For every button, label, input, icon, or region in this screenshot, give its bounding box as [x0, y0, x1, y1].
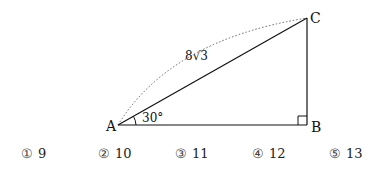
choice-value: 10 — [115, 146, 132, 161]
side-ac — [118, 18, 307, 125]
choice-3[interactable]: ③11 — [175, 146, 209, 161]
choice-value: 9 — [38, 146, 46, 161]
choice-value: 11 — [192, 146, 209, 161]
choice-marker: ④ — [252, 146, 264, 161]
vertex-b-label: B — [311, 119, 321, 135]
angle-label: 30° — [142, 111, 163, 125]
hypotenuse-label: 8√3 — [185, 49, 208, 63]
angle-arc — [134, 117, 137, 126]
choice-marker: ③ — [175, 146, 187, 161]
choice-4[interactable]: ④12 — [252, 146, 286, 161]
choice-value: 13 — [346, 146, 363, 161]
choice-5[interactable]: ⑤13 — [329, 146, 363, 161]
vertex-c-label: C — [310, 10, 321, 26]
right-angle-mark — [298, 116, 307, 125]
choice-value: 12 — [269, 146, 286, 161]
answer-choices: ①9 ②10 ③11 ④12 ⑤13 — [0, 146, 375, 166]
choice-marker: ① — [21, 146, 33, 161]
choice-marker: ⑤ — [329, 146, 341, 161]
choice-marker: ② — [98, 146, 110, 161]
vertex-a-label: A — [105, 118, 117, 134]
choice-1[interactable]: ①9 — [21, 146, 46, 161]
choice-2[interactable]: ②10 — [98, 146, 132, 161]
